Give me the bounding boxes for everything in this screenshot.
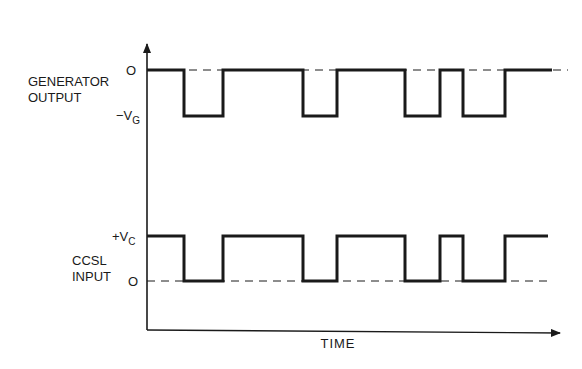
timing-diagram: TIME GENERATOR OUTPUT O −VG CCSL INPUT +…: [0, 0, 582, 369]
time-axis-label: TIME: [320, 336, 355, 351]
generator-output-signal: GENERATOR OUTPUT O −VG: [28, 63, 568, 126]
generator-output-label-line1: GENERATOR: [28, 74, 109, 89]
generator-output-label-line2: OUTPUT: [28, 90, 82, 105]
ccsl-input-label-line1: CCSL: [72, 253, 107, 268]
ccsl-input-waveform: [147, 236, 548, 281]
ccsl-plus-vc-label: +VC: [112, 229, 136, 247]
ccsl-input-signal: CCSL INPUT +VC O: [72, 229, 552, 289]
ccsl-zero-level-label: O: [128, 274, 138, 289]
generator-minus-vg-label: −VG: [116, 108, 140, 126]
ccsl-input-label-line2: INPUT: [72, 269, 111, 284]
time-axis-arrow: [147, 330, 560, 333]
axes: TIME: [147, 44, 560, 351]
generator-zero-level-label: O: [126, 63, 136, 78]
generator-output-waveform: [147, 70, 552, 116]
